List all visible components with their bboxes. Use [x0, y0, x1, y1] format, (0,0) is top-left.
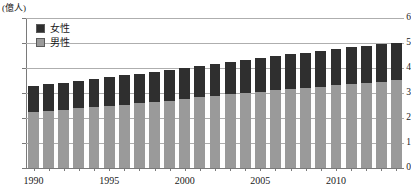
gridline [26, 18, 404, 19]
x-axis-tick-mark [275, 168, 276, 171]
bar-segment-male [270, 90, 281, 168]
bar-segment-female [28, 86, 39, 112]
x-axis-tick-mark [336, 168, 337, 171]
x-axis-tick-mark [139, 168, 140, 171]
bar-segment-male [28, 112, 39, 168]
bar-segment-female [331, 49, 342, 85]
bar-segment-female [119, 75, 130, 104]
bar-2010 [331, 49, 342, 168]
bar-1994 [89, 79, 100, 168]
x-axis-tick-mark [79, 168, 80, 171]
bar-segment-female [89, 79, 100, 107]
bar-segment-male [119, 105, 130, 169]
bar-1992 [58, 83, 69, 169]
bar-1990 [28, 86, 39, 169]
bar-2003 [225, 62, 236, 169]
bar-segment-male [225, 94, 236, 168]
y-axis-unit-label: (億人) [2, 3, 26, 14]
bar-segment-male [210, 96, 221, 168]
x-axis-tick-mark [185, 168, 186, 171]
bar-2005 [255, 58, 266, 168]
bar-segment-male [300, 88, 311, 168]
bar-segment-male [391, 80, 402, 168]
x-axis-tick-mark [94, 168, 95, 171]
bar-segment-male [331, 85, 342, 168]
bar-segment-female [270, 56, 281, 90]
bar-2002 [210, 64, 221, 169]
bar-segment-female [194, 66, 205, 98]
bar-segment-male [164, 101, 175, 169]
bar-segment-male [315, 87, 326, 169]
bar-segment-female [285, 54, 296, 89]
legend-item-male: 男性 [36, 36, 70, 49]
bar-segment-female [164, 70, 175, 101]
x-axis-tick-label: 2005 [240, 175, 280, 186]
bar-segment-female [225, 62, 236, 95]
bar-1995 [104, 77, 115, 168]
bar-2000 [179, 68, 190, 169]
x-axis-tick-mark [321, 168, 322, 171]
bar-2009 [315, 51, 326, 168]
x-axis-tick-mark [291, 168, 292, 171]
x-axis-tick-label: 1990 [14, 175, 54, 186]
x-axis-tick-mark [381, 168, 382, 171]
gridline [26, 43, 404, 44]
bar-2012 [361, 46, 372, 169]
bar-segment-female [376, 44, 387, 82]
chart-container: (億人) 0123456 19901995200020052010 女性 男性 [0, 0, 411, 194]
bar-segment-female [179, 68, 190, 99]
legend-label-male: 男性 [50, 36, 70, 49]
bar-segment-male [376, 82, 387, 169]
bar-2004 [240, 60, 251, 168]
bar-2014 [391, 43, 402, 169]
bar-segment-female [240, 60, 251, 93]
x-axis-tick-mark [366, 168, 367, 171]
bar-2007 [285, 54, 296, 168]
bar-segment-male [346, 84, 357, 168]
bar-segment-female [210, 64, 221, 96]
x-axis-tick-mark [64, 168, 65, 171]
bar-segment-female [346, 47, 357, 84]
x-axis-tick-label: 1995 [89, 175, 129, 186]
bar-segment-female [315, 51, 326, 87]
x-axis-tick-label: 2000 [165, 175, 205, 186]
bar-segment-female [391, 43, 402, 81]
bar-segment-male [43, 111, 54, 169]
bar-1997 [134, 74, 145, 169]
bar-1991 [43, 84, 54, 168]
bar-segment-female [134, 74, 145, 104]
bar-segment-female [300, 53, 311, 88]
bar-2013 [376, 44, 387, 168]
x-axis-tick-mark [230, 168, 231, 171]
legend-label-female: 女性 [50, 22, 70, 35]
bar-segment-female [149, 72, 160, 102]
x-axis-tick-mark [34, 168, 35, 171]
bar-2008 [300, 53, 311, 169]
bar-segment-male [104, 106, 115, 168]
bar-segment-male [255, 92, 266, 169]
bar-segment-male [194, 97, 205, 168]
bar-segment-female [255, 58, 266, 92]
x-axis-tick-mark [200, 168, 201, 171]
bar-segment-male [58, 110, 69, 169]
bar-segment-male [134, 103, 145, 168]
bar-segment-male [73, 108, 84, 168]
chart-legend: 女性 男性 [36, 22, 70, 50]
bar-segment-male [179, 99, 190, 168]
bar-segment-male [149, 102, 160, 168]
legend-item-female: 女性 [36, 22, 70, 35]
x-axis-tick-mark [260, 168, 261, 171]
x-axis-tick-mark [109, 168, 110, 171]
bar-1999 [164, 70, 175, 168]
bar-2001 [194, 66, 205, 169]
bar-1996 [119, 75, 130, 168]
x-axis-tick-mark [155, 168, 156, 171]
bar-segment-female [104, 77, 115, 106]
x-axis-tick-mark [351, 168, 352, 171]
x-axis-tick-label: 2010 [316, 175, 356, 186]
x-axis-tick-mark [306, 168, 307, 171]
bar-segment-female [361, 46, 372, 83]
bar-2011 [346, 47, 357, 168]
bar-segment-male [285, 89, 296, 168]
bar-segment-female [58, 83, 69, 110]
